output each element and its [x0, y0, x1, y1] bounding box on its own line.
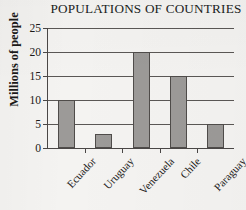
x-axis-label: Uruguay — [101, 155, 136, 191]
x-tick-mark — [85, 148, 86, 153]
x-axis-label: Venezuela — [137, 155, 177, 196]
x-tick-mark — [197, 148, 198, 153]
chart-title: POPULATIONS OF COUNTRIES — [46, 1, 246, 17]
y-tick-mark — [43, 124, 48, 125]
y-tick-label: 5 — [35, 118, 41, 131]
y-tick-mark — [43, 76, 48, 77]
bar — [133, 52, 150, 148]
x-axis-label: Chile — [178, 155, 203, 181]
x-tick-mark — [122, 148, 123, 153]
x-tick-mark — [160, 148, 161, 153]
y-tick-label: 15 — [29, 70, 41, 83]
gridline — [48, 28, 234, 29]
y-tick-label: 25 — [29, 22, 41, 35]
y-tick-label: 0 — [35, 142, 41, 155]
bar-chart-figure: POPULATIONS OF COUNTRIES Millions of peo… — [0, 0, 246, 210]
x-axis-label: Ecuador — [64, 155, 98, 190]
y-tick-label: 20 — [29, 46, 41, 59]
bar — [170, 76, 187, 148]
y-axis-title: Millions of people — [7, 0, 22, 120]
y-tick-mark — [43, 100, 48, 101]
y-tick-mark — [43, 148, 48, 149]
y-tick-mark — [43, 52, 48, 53]
bar — [207, 124, 224, 148]
bar — [95, 134, 112, 148]
y-tick-mark — [43, 28, 48, 29]
plot-area: 0510152025 EcuadorUruguayVenezuelaChileP… — [47, 28, 234, 149]
bar — [58, 100, 75, 148]
x-axis-label: Paraguay — [212, 155, 246, 193]
y-tick-label: 10 — [29, 94, 41, 107]
